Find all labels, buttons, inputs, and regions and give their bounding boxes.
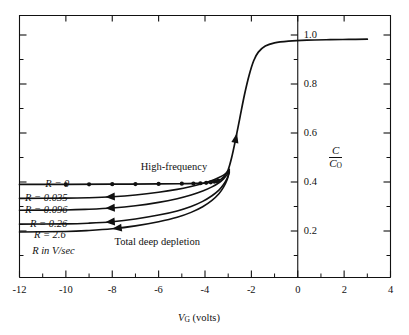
x-axis-title: VG (volts) <box>178 313 220 324</box>
y-tick-label-0.4: 0.4 <box>304 177 317 188</box>
x-tick-label--4: -4 <box>201 285 210 296</box>
series-label-r-0.096: R = 0.096 <box>25 205 67 216</box>
x-tick-label--10: -10 <box>59 285 73 296</box>
x-axis-title-subscript: G <box>184 315 189 324</box>
y-axis-title-numerator: C <box>329 145 342 157</box>
data-point-marker <box>157 182 161 186</box>
x-tick-label-4: 4 <box>388 285 393 296</box>
y-tick-label-0.8: 0.8 <box>304 79 317 90</box>
arrow-left-3 <box>105 217 115 225</box>
annotation-total-deep-depletion: Total deep depletion <box>114 237 200 248</box>
x-axis-title-units: (volts) <box>192 312 219 323</box>
arrow-left-2 <box>105 204 115 212</box>
series-label-r-0.035-text: R = 0.035 <box>25 192 67 203</box>
annotation-high-frequency: High-frequency <box>141 162 207 173</box>
data-point-marker <box>198 181 202 185</box>
series-label-r-0-text: R = 0 <box>45 178 69 189</box>
data-point-marker <box>191 181 195 185</box>
data-point-marker <box>110 182 114 186</box>
series-units-note-text: R in V/sec <box>32 245 75 256</box>
data-point-marker <box>133 182 137 186</box>
x-tick-label--6: -6 <box>154 285 163 296</box>
series-label-r-0: R = 0 <box>45 179 69 190</box>
series-label-r-0.096-text: R = 0.096 <box>25 204 67 215</box>
series-label-r-0.26-text: R = 0.26 <box>30 218 67 229</box>
x-tick-label--8: -8 <box>108 285 117 296</box>
series-label-r-2.6: R = 2.6 <box>34 230 66 241</box>
x-tick-label-2: 2 <box>342 285 347 296</box>
figure-mos-cv-curve: -12 -10 -8 -6 -4 -2 0 2 4 0.2 0.4 0.6 0.… <box>0 0 409 335</box>
y-tick-label-0.2: 0.2 <box>304 226 317 237</box>
x-tick-label--2: -2 <box>247 285 256 296</box>
series-units-note: R in V/sec <box>32 246 75 257</box>
x-tick-label-0: 0 <box>295 285 300 296</box>
y-tick-label-1.0: 1.0 <box>304 30 317 41</box>
arrow-left-1 <box>105 193 115 201</box>
data-point-marker <box>87 182 91 186</box>
y-axis-title: C CO <box>329 145 342 170</box>
series-label-r-2.6-text: R = 2.6 <box>34 229 66 240</box>
data-point-marker <box>216 179 220 183</box>
series-label-r-0.26: R = 0.26 <box>30 219 67 230</box>
data-point-marker <box>204 181 208 185</box>
data-point-marker <box>180 182 184 186</box>
series-label-r-0.035: R = 0.035 <box>25 193 67 204</box>
x-tick-label--12: -12 <box>13 285 27 296</box>
y-tick-label-0.6: 0.6 <box>304 128 317 139</box>
y-axis-title-denominator: CO <box>329 157 342 170</box>
